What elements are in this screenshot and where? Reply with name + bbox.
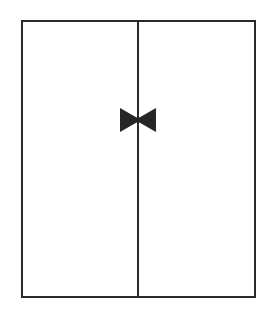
bowtie-waist-icon [136,118,140,122]
technical-drawing [0,0,270,317]
drawing-canvas [0,0,270,317]
